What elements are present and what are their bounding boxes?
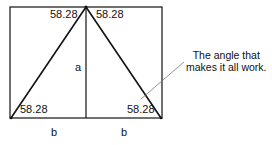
annotation-line-1: The angle that xyxy=(186,50,267,62)
base-left-angle-label: 58.28 xyxy=(20,104,48,115)
apex-point xyxy=(85,6,88,9)
base-right-angle-label: 58.28 xyxy=(127,104,155,115)
base-left-label-b: b xyxy=(51,127,57,138)
apex-right-angle-label: 58.28 xyxy=(96,9,124,20)
right-hypotenuse xyxy=(86,7,161,118)
base-right-point xyxy=(160,117,163,120)
annotation-text: The angle that makes it all work. xyxy=(186,50,267,73)
apex-left-angle-label: 58.28 xyxy=(50,9,78,20)
height-label-a: a xyxy=(75,62,81,73)
base-left-point xyxy=(10,117,13,120)
base-right-label-b: b xyxy=(121,127,127,138)
annotation-line-2: makes it all work. xyxy=(186,62,267,74)
